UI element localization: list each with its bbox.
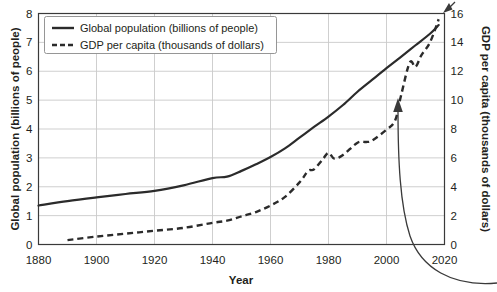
y-left-tick-label: 5 bbox=[26, 94, 32, 106]
legend-item-gdp-per-capita[interactable]: GDP per capita (thousands of dollars) bbox=[52, 39, 264, 51]
y-right-tick-label: 10 bbox=[451, 94, 464, 106]
y-right-tick-label: 16 bbox=[451, 8, 464, 20]
y-right-tick-label: 8 bbox=[451, 123, 457, 135]
y-left-tick-label: 2 bbox=[26, 181, 32, 193]
y-axis-left-tick-labels: 012345678 bbox=[26, 8, 33, 251]
x-tick-label: 2000 bbox=[374, 254, 400, 266]
y-left-tick-label: 0 bbox=[26, 239, 32, 251]
legend: Global population (billions of people) G… bbox=[45, 17, 277, 54]
x-tick-label: 1980 bbox=[316, 254, 342, 266]
legend-label-global-population: Global population (billions of people) bbox=[80, 22, 258, 34]
x-tick-label: 2020 bbox=[432, 254, 458, 266]
y-left-tick-label: 1 bbox=[26, 210, 32, 222]
x-tick-label: 1920 bbox=[142, 254, 168, 266]
y-axis-right-title: GDP per capita (thousands of dollars) bbox=[480, 26, 492, 232]
y-right-tick-label: 12 bbox=[451, 65, 464, 77]
x-axis-title: Year bbox=[229, 274, 254, 286]
x-tick-label: 1960 bbox=[258, 254, 284, 266]
y-axis-left-title: Global population (billions of people) bbox=[9, 27, 21, 230]
legend-item-global-population[interactable]: Global population (billions of people) bbox=[52, 22, 258, 34]
x-tick-label: 1900 bbox=[84, 254, 110, 266]
y-left-tick-label: 4 bbox=[26, 123, 33, 135]
y-right-tick-label: 4 bbox=[451, 181, 458, 193]
y-left-tick-label: 7 bbox=[26, 36, 32, 48]
y-left-tick-label: 3 bbox=[26, 152, 32, 164]
legend-label-gdp-per-capita: GDP per capita (thousands of dollars) bbox=[80, 39, 264, 51]
y-right-tick-label: 2 bbox=[451, 210, 457, 222]
population-gdp-line-chart: 18801900192019401960198020002020 0123456… bbox=[0, 0, 497, 292]
y-right-tick-label: 0 bbox=[451, 239, 457, 251]
x-tick-label: 1880 bbox=[26, 254, 52, 266]
chart-container: 18801900192019401960198020002020 0123456… bbox=[0, 0, 497, 292]
y-left-tick-label: 6 bbox=[26, 65, 32, 77]
y-right-tick-label: 14 bbox=[451, 36, 464, 48]
x-tick-label: 1940 bbox=[200, 254, 226, 266]
y-right-tick-label: 6 bbox=[451, 152, 457, 164]
y-left-tick-label: 8 bbox=[26, 8, 32, 20]
